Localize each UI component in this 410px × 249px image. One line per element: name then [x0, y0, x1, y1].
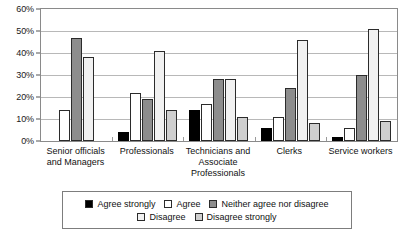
bar	[83, 57, 94, 141]
legend-label: Agree	[176, 199, 200, 209]
chart-legend: Agree stronglyAgreeNeither agree nor dis…	[62, 191, 352, 229]
legend-item[interactable]: Neither agree nor disagree	[209, 199, 328, 209]
legend-label: Disagree	[149, 212, 185, 222]
y-axis-tick-label: 10%	[16, 115, 34, 124]
bar	[213, 79, 224, 141]
bar	[71, 38, 82, 141]
x-axis-label: Senior officials and Managers	[40, 146, 111, 168]
chart-screenshot: 60%50%40%30%20%10%0% Senior officials an…	[0, 0, 410, 249]
bar	[273, 117, 284, 141]
legend-swatch-agree-strongly	[85, 200, 93, 208]
y-axis-tick-label: 0%	[21, 137, 34, 146]
x-axis-tick-mark	[112, 137, 113, 141]
bar	[201, 104, 212, 141]
y-axis: 60%50%40%30%20%10%0%	[0, 8, 34, 142]
legend-item[interactable]: Agree strongly	[85, 199, 155, 209]
legend-row: DisagreeDisagree strongly	[137, 212, 276, 222]
bar	[130, 93, 141, 141]
bar-group	[326, 9, 397, 141]
x-axis: Senior officials and ManagersProfessiona…	[40, 146, 398, 186]
bar	[309, 123, 320, 141]
legend-label: Disagree strongly	[207, 212, 277, 222]
bar-group	[183, 9, 254, 141]
bar	[142, 99, 153, 141]
legend-label: Agree strongly	[97, 199, 155, 209]
bar-group	[112, 9, 183, 141]
legend-row: Agree stronglyAgreeNeither agree nor dis…	[85, 199, 328, 209]
legend-item[interactable]: Disagree strongly	[195, 212, 277, 222]
legend-swatch-disagree	[137, 213, 145, 221]
y-axis-tick-label: 60%	[16, 5, 34, 14]
bar	[59, 110, 70, 141]
y-axis-tick-label: 20%	[16, 93, 34, 102]
legend-swatch-agree	[164, 200, 172, 208]
bar	[189, 110, 200, 141]
x-axis-tick-mark	[183, 137, 184, 141]
legend-swatch-disagree-strongly	[195, 213, 203, 221]
bar	[166, 110, 177, 141]
x-axis-tick-mark	[326, 137, 327, 141]
x-axis-tick-mark	[255, 137, 256, 141]
bar	[154, 51, 165, 141]
bar-group	[41, 9, 112, 141]
legend-label: Neither agree nor disagree	[221, 199, 328, 209]
bar	[344, 128, 355, 141]
bar	[332, 137, 343, 141]
x-axis-label: Professionals	[111, 146, 182, 157]
x-axis-label: Clerks	[254, 146, 325, 157]
bar	[368, 29, 379, 141]
legend-item[interactable]: Agree	[164, 199, 200, 209]
legend-swatch-neither	[209, 200, 217, 208]
bar	[380, 121, 391, 141]
bar	[356, 75, 367, 141]
bar	[297, 40, 308, 141]
bar-group	[255, 9, 326, 141]
bars-layer	[41, 9, 397, 141]
legend-item[interactable]: Disagree	[137, 212, 185, 222]
plot-area: 60%50%40%30%20%10%0% Senior officials an…	[0, 0, 410, 182]
x-axis-label: Technicians and Associate Professionals	[182, 146, 253, 179]
plot-frame	[40, 8, 398, 142]
bar	[118, 132, 129, 141]
bar	[225, 79, 236, 141]
y-axis-tick-label: 50%	[16, 27, 34, 36]
y-axis-tick-label: 40%	[16, 49, 34, 58]
x-axis-label: Service workers	[325, 146, 396, 157]
bar	[285, 88, 296, 141]
bar	[237, 117, 248, 141]
y-axis-tick-label: 30%	[16, 71, 34, 80]
bar	[261, 128, 272, 141]
